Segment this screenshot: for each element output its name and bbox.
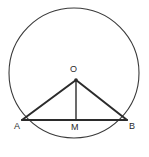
- geometry-canvas: [0, 0, 149, 157]
- center-point-dot: [74, 78, 78, 82]
- vertex-label-a: A: [14, 122, 20, 131]
- vertex-label-o: O: [70, 65, 77, 74]
- vertex-label-b: B: [129, 122, 135, 131]
- circle-geometry-diagram: O A B M: [0, 0, 149, 157]
- vertex-label-m: M: [71, 123, 79, 132]
- radius-segment-ob: [76, 80, 127, 120]
- radius-segment-oa: [22, 80, 76, 120]
